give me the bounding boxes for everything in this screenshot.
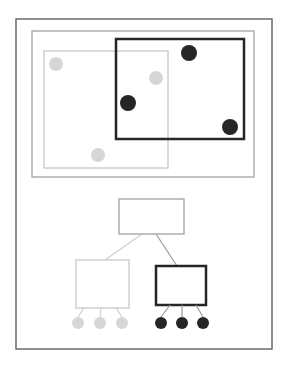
- light-point: [91, 148, 105, 162]
- leaf-edge: [161, 305, 170, 317]
- dark-leaf: [197, 317, 209, 329]
- dark-point: [120, 95, 136, 111]
- leaf-edge: [116, 308, 122, 317]
- leaf-edge: [100, 308, 101, 317]
- spatial-panel-frame: [32, 31, 254, 177]
- dark-leaf: [176, 317, 188, 329]
- tree-edge: [156, 234, 177, 266]
- dark-leaf: [155, 317, 167, 329]
- light-leaf: [116, 317, 128, 329]
- tree-edge: [105, 234, 142, 260]
- light-child-node: [76, 260, 129, 308]
- light-point: [49, 57, 63, 71]
- spatial-panel: [44, 39, 244, 168]
- light-point: [149, 71, 163, 85]
- light-region: [44, 51, 168, 168]
- light-leaf: [72, 317, 84, 329]
- light-leaf: [94, 317, 106, 329]
- tree-panel: [72, 199, 209, 329]
- dark-child-node: [156, 266, 206, 305]
- dark-point: [222, 119, 238, 135]
- root-node: [119, 199, 184, 234]
- leaf-edge: [196, 305, 203, 317]
- leaf-edge: [78, 308, 84, 317]
- diagram-canvas: [0, 0, 291, 366]
- dark-point: [181, 45, 197, 61]
